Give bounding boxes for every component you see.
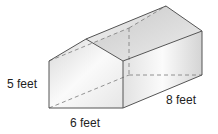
height-label: 5 feet [7,77,38,91]
length-label: 8 feet [166,93,197,107]
width-label: 6 feet [70,116,101,130]
house-prism-diagram: 5 feet 6 feet 8 feet [0,0,218,134]
